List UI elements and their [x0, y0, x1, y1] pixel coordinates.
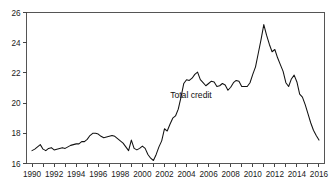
x-tick-label: 1994 [67, 170, 86, 179]
x-tick-label: 2000 [133, 170, 152, 179]
series-label-total-credit: Total credit [170, 90, 212, 100]
x-tick-label: 2016 [310, 170, 329, 179]
y-tick-label: 18 [11, 129, 21, 138]
chart-figure: 161820222426 199019921994199619982000200… [0, 0, 331, 190]
x-tick-label: 2014 [288, 170, 307, 179]
x-tick-label: 1990 [23, 170, 42, 179]
y-tick-label: 20 [11, 99, 21, 108]
x-tick-label: 2004 [177, 170, 196, 179]
x-tick-label: 1992 [45, 170, 64, 179]
x-tick-label: 2002 [155, 170, 174, 179]
x-tick-label: 2012 [266, 170, 285, 179]
y-tick-label: 22 [11, 69, 21, 78]
chart-annotations: Total credit [170, 90, 212, 100]
total-credit-line-chart: 161820222426 199019921994199619982000200… [0, 0, 331, 190]
x-tick-label: 1996 [89, 170, 108, 179]
x-tick-label: 2010 [244, 170, 263, 179]
x-tick-label: 1998 [111, 170, 130, 179]
chart-background [0, 0, 331, 190]
y-tick-label: 16 [11, 160, 21, 169]
y-tick-label: 24 [11, 39, 21, 48]
x-tick-label: 2006 [200, 170, 219, 179]
x-tick-label: 2008 [222, 170, 241, 179]
y-tick-label: 26 [11, 9, 21, 18]
